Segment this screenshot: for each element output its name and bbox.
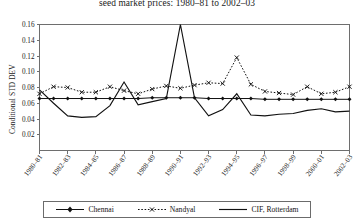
x-tick-label: 1994–95 bbox=[220, 153, 242, 178]
data-point-marker-chennai bbox=[38, 97, 42, 101]
data-point-marker-chennai bbox=[319, 97, 323, 101]
chart-figure: seed market prices: 1980–81 to 2002–03 C… bbox=[0, 0, 354, 222]
y-tick-label: 0.10 bbox=[22, 68, 35, 76]
y-tick-label: 0.16 bbox=[22, 21, 35, 29]
legend-item-chennai: Chennai bbox=[55, 205, 113, 214]
series-line-nandyal bbox=[40, 58, 350, 95]
x-tick-label: 1990–91 bbox=[163, 153, 185, 178]
x-tick-label: 1980–81 bbox=[22, 153, 44, 178]
data-point-marker-nandyal bbox=[206, 81, 210, 85]
data-point-marker-nandyal bbox=[136, 92, 140, 96]
legend-swatch-chennai bbox=[55, 205, 85, 214]
data-point-marker-chennai bbox=[66, 97, 70, 101]
data-point-marker-chennai bbox=[136, 97, 140, 101]
data-point-marker-chennai bbox=[277, 97, 281, 101]
data-point-marker-chennai bbox=[80, 97, 84, 101]
y-tick-label: 0.04 bbox=[22, 116, 35, 124]
legend-label-cif-rotterdam: CIF, Rotterdam bbox=[251, 206, 298, 214]
legend-swatch-cif-rotterdam bbox=[218, 205, 248, 214]
x-tick-label: 1992–93 bbox=[192, 153, 214, 178]
data-point-marker-chennai bbox=[348, 97, 352, 101]
data-point-marker-nandyal bbox=[178, 86, 182, 90]
data-point-marker-nandyal bbox=[249, 82, 253, 86]
x-tick-label: 1998–99 bbox=[276, 153, 298, 178]
data-point-marker-chennai bbox=[221, 97, 225, 101]
data-point-marker-nandyal bbox=[221, 81, 225, 85]
y-tick-label: 0.12 bbox=[22, 53, 35, 61]
data-point-marker-nandyal bbox=[164, 84, 168, 88]
x-tick-label: 2000–01 bbox=[304, 153, 326, 178]
data-point-marker-chennai bbox=[52, 97, 56, 101]
chart-legend: Chennai Nandyal CIF, Rotterdam bbox=[43, 201, 311, 218]
series-line-cif-rotterdam bbox=[40, 25, 350, 118]
y-tick-label: 0.02 bbox=[22, 131, 35, 139]
data-point-marker-nandyal bbox=[263, 89, 267, 93]
x-tick-label: 2002–03 bbox=[332, 153, 354, 178]
data-point-marker-chennai bbox=[150, 96, 154, 100]
data-point-marker-chennai bbox=[94, 97, 98, 101]
data-point-marker-chennai bbox=[305, 97, 309, 101]
data-point-marker-chennai bbox=[235, 97, 239, 101]
data-point-marker-chennai bbox=[122, 97, 126, 101]
data-point-marker-nandyal bbox=[305, 85, 309, 89]
x-tick-label: 1988–89 bbox=[135, 153, 157, 178]
data-point-marker-chennai bbox=[108, 97, 112, 101]
legend-item-nandyal: Nandyal bbox=[137, 205, 196, 214]
legend-label-nandyal: Nandyal bbox=[170, 206, 196, 214]
data-point-marker-nandyal bbox=[235, 55, 239, 59]
x-tick-label: 1982–83 bbox=[51, 153, 73, 178]
data-point-marker-nandyal bbox=[108, 85, 112, 89]
data-point-marker-chennai bbox=[207, 97, 211, 101]
data-point-marker-chennai bbox=[291, 97, 295, 101]
data-point-marker-chennai bbox=[249, 97, 253, 101]
plot-area: 0.020.040.060.080.100.120.140.161980–811… bbox=[0, 0, 354, 222]
y-tick-label: 0.08 bbox=[22, 84, 35, 92]
legend-swatch-nandyal bbox=[137, 205, 167, 214]
x-tick-label: 1986–87 bbox=[107, 153, 129, 178]
data-point-marker-chennai bbox=[178, 96, 182, 100]
x-tick-label: 1984–85 bbox=[79, 153, 101, 178]
y-tick-label: 0.06 bbox=[22, 100, 35, 108]
x-tick-label: 1996–97 bbox=[248, 153, 270, 178]
data-point-marker-chennai bbox=[263, 97, 267, 101]
legend-label-chennai: Chennai bbox=[88, 206, 113, 214]
legend-item-cif-rotterdam: CIF, Rotterdam bbox=[218, 205, 298, 214]
data-point-marker-chennai bbox=[333, 97, 337, 101]
y-tick-label: 0.14 bbox=[22, 37, 35, 45]
